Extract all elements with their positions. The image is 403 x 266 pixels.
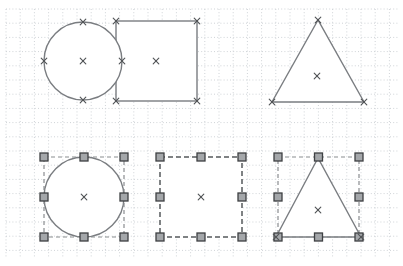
selection-handle[interactable] <box>197 233 205 241</box>
triangle-selected-group <box>273 153 364 241</box>
selection-handle[interactable] <box>315 153 323 161</box>
triangle-unselected[interactable] <box>272 20 364 102</box>
selection-handle[interactable] <box>274 193 282 201</box>
selection-handle[interactable] <box>80 233 88 241</box>
selection-handle[interactable] <box>315 233 323 241</box>
selection-handle[interactable] <box>274 153 282 161</box>
selection-handle[interactable] <box>156 193 164 201</box>
triangle-unselected-group <box>269 17 367 105</box>
selection-handle[interactable] <box>238 233 246 241</box>
selection-handle[interactable] <box>40 233 48 241</box>
selection-handle[interactable] <box>120 233 128 241</box>
selection-handle[interactable] <box>80 153 88 161</box>
selection-handle[interactable] <box>238 193 246 201</box>
triangle-selected[interactable] <box>276 158 361 237</box>
canvas[interactable] <box>0 0 403 266</box>
square-unselected-group <box>113 18 200 104</box>
selection-handle[interactable] <box>40 153 48 161</box>
selection-handle[interactable] <box>355 153 363 161</box>
selection-handle[interactable] <box>156 153 164 161</box>
selection-handle[interactable] <box>120 193 128 201</box>
selection-handle[interactable] <box>40 193 48 201</box>
selection-handle[interactable] <box>120 153 128 161</box>
selection-handle[interactable] <box>156 233 164 241</box>
circle-unselected-group <box>41 19 125 103</box>
selection-handle[interactable] <box>197 153 205 161</box>
selection-handle[interactable] <box>355 193 363 201</box>
circle-selected-group <box>40 153 128 241</box>
square-selected-group <box>156 153 246 241</box>
drawing-canvas[interactable] <box>0 0 403 266</box>
selection-handle[interactable] <box>238 153 246 161</box>
